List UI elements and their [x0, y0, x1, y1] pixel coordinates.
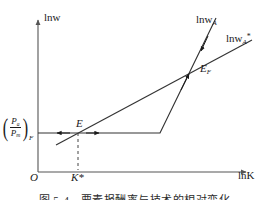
price-ratio-fraction: Pa Pm: [10, 117, 22, 138]
y-axis-label: lnw: [44, 12, 61, 23]
plot-canvas: [0, 0, 269, 200]
left-paren: (: [3, 117, 8, 138]
x-axis-label: lnK: [238, 170, 255, 181]
curve-label-lnw-a: lnwA: [196, 14, 217, 25]
figure-caption: 图 5-4 要素报酬率与技术的相对变化: [0, 190, 269, 200]
x-tick-label-kstar: K*: [71, 172, 84, 183]
point-label-ef: EF: [200, 63, 211, 74]
point-label-e: E: [76, 118, 83, 129]
figure-container: lnw lnK O K* lnwA lnwA* E EF ( Pa Pm: [0, 0, 269, 200]
right-paren: ): [23, 117, 28, 138]
figure-caption-text: 图 5-4 要素报酬率与技术的相对变化: [39, 191, 231, 200]
y-intercept-label: ( Pa Pm ) F: [1, 117, 34, 138]
origin-label: O: [30, 172, 38, 183]
curve-lnw-a: [38, 18, 216, 133]
curve-lnw-a-star: [56, 40, 252, 145]
curve-label-lnw-a-star: lnwA*: [226, 33, 251, 44]
outer-subscript: F: [29, 135, 33, 142]
flow-arrow-down-upper: [201, 36, 208, 51]
